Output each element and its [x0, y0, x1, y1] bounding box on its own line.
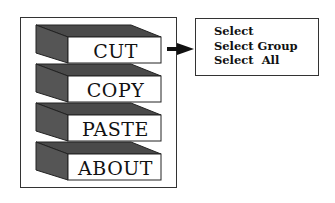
copy-button[interactable]: COPY — [35, 63, 163, 105]
submenu-popup: Select Select Group Select All — [195, 18, 319, 76]
paste-button[interactable]: PASTE — [35, 102, 163, 144]
paste-label: PASTE — [69, 116, 162, 142]
about-label: ABOUT — [69, 155, 162, 181]
submenu-item-select[interactable]: Select — [214, 24, 318, 39]
submenu-item-select-all[interactable]: Select All — [214, 53, 318, 68]
about-button[interactable]: ABOUT — [35, 141, 163, 183]
copy-label: COPY — [69, 77, 162, 103]
cut-label: CUT — [69, 38, 162, 64]
cut-button[interactable]: CUT — [35, 24, 163, 66]
submenu-item-select-group[interactable]: Select Group — [214, 39, 318, 54]
arrow-right-icon — [167, 43, 195, 55]
